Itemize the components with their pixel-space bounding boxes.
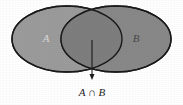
intersection-arrow-head	[90, 74, 95, 80]
venn-diagram-canvas: A B A ∩ B	[0, 0, 183, 105]
set-b-label: B	[133, 32, 140, 44]
set-a-label: A	[42, 32, 50, 44]
venn-diagram-figure: A B A ∩ B	[0, 0, 183, 105]
intersection-caption: A ∩ B	[78, 86, 106, 98]
